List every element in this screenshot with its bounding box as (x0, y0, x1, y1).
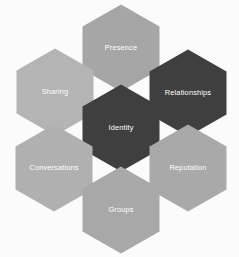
honeycomb-diagram: Presence Sharing Relationships Identity … (0, 0, 239, 257)
honeycomb-svg: Presence Sharing Relationships Identity … (0, 0, 239, 257)
